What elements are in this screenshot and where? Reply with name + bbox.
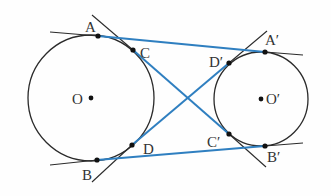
label-o-prime: O′: [266, 91, 280, 107]
label-b: B: [82, 167, 92, 183]
label-o: O: [72, 91, 83, 107]
point-d: [129, 142, 134, 147]
tangent-line-d-lower: [92, 145, 132, 182]
label-c: C: [140, 45, 150, 61]
label-b-prime: B′: [267, 149, 280, 165]
center-o-prime: [259, 97, 264, 102]
label-c-prime: C′: [207, 134, 220, 150]
point-b-prime: [262, 143, 267, 148]
point-c-prime: [226, 131, 231, 136]
tangent-line-b-left: [50, 160, 97, 165]
point-a: [95, 33, 100, 38]
tangent-line-c-prime-lower: [229, 134, 266, 167]
tangent-circles-diagram: A C B D A′ D′ C′ B′ O O′: [0, 0, 331, 196]
label-d: D: [143, 141, 154, 157]
point-a-prime: [262, 49, 267, 54]
label-a-prime: A′: [265, 32, 279, 48]
point-d-prime: [226, 60, 231, 65]
label-a: A: [85, 19, 96, 35]
point-b: [94, 157, 99, 162]
tangent-line-c-upper: [92, 15, 133, 50]
tangent-line-d-prime-upper: [229, 31, 267, 63]
diagram-canvas: A C B D A′ D′ C′ B′ O O′: [0, 0, 331, 196]
label-d-prime: D′: [209, 54, 223, 70]
center-o: [89, 96, 94, 101]
point-c: [130, 47, 135, 52]
